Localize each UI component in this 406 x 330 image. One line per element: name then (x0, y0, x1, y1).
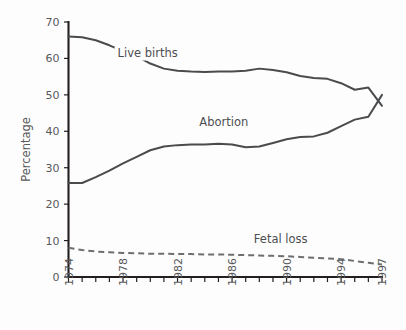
y-tick-label: 20 (46, 198, 60, 211)
x-tick-label: 1982 (172, 258, 185, 286)
x-tick-label: 1978 (117, 258, 130, 286)
x-tick-label: 1997 (376, 258, 389, 286)
series-label-fetal-loss: Fetal loss (254, 232, 308, 246)
y-tick-label: 10 (46, 235, 60, 248)
y-tick-label: 40 (46, 125, 60, 138)
x-tick-label: 1990 (281, 258, 294, 286)
y-tick-label: 0 (53, 271, 60, 284)
x-tick-label: 1994 (335, 258, 348, 286)
series-label-abortion: Abortion (199, 115, 248, 129)
y-tick-label: 70 (46, 16, 60, 29)
y-tick-label: 50 (46, 89, 60, 102)
chart-page: 010203040506070 197419781982198619901994… (0, 0, 406, 330)
x-tick-label: 1986 (226, 258, 239, 286)
line-chart: 010203040506070 197419781982198619901994… (0, 0, 406, 330)
x-tick-label: 1974 (63, 258, 76, 286)
y-tick-label: 60 (46, 52, 60, 65)
series-label-live-births: Live births (118, 46, 178, 60)
y-tick-label: 30 (46, 162, 60, 175)
y-axis-title: Percentage (19, 117, 33, 182)
